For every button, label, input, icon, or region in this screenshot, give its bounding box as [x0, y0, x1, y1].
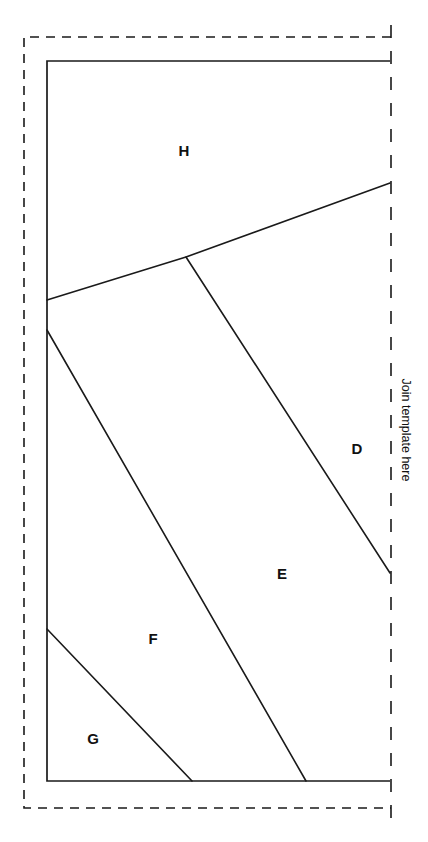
divider-line-D-E — [186, 257, 390, 573]
divider-line-F-G — [47, 629, 192, 781]
pattern-sheet-page: H D E F G Join template here — [0, 0, 428, 842]
region-label-H: H — [179, 143, 190, 158]
region-label-D: D — [352, 441, 363, 456]
dashed-trim-border — [24, 37, 391, 808]
region-label-G: G — [87, 731, 99, 746]
divider-line-E-F — [47, 330, 306, 781]
region-label-E: E — [277, 566, 287, 581]
dashed-border-top-left-bottom — [24, 37, 391, 808]
join-template-here-label: Join template here — [400, 379, 413, 482]
pattern-divider-lines — [47, 183, 390, 781]
divider-line-H-D — [47, 183, 390, 300]
pattern-drawing — [0, 0, 428, 842]
region-label-F: F — [148, 631, 157, 646]
